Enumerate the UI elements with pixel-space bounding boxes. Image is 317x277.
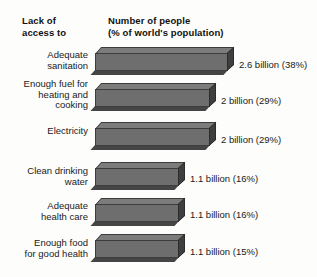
bar-body [95, 162, 179, 180]
bar-body [95, 234, 179, 252]
column-header-value: Number of people (% of world's populatio… [108, 15, 224, 38]
column-header-category-line1: Lack of [22, 15, 66, 27]
category-label-line: Electricity [2, 126, 88, 137]
bar [95, 47, 228, 65]
bar-body [95, 198, 179, 216]
bar-front-face [95, 240, 179, 258]
category-label-line: Clean drinking [2, 166, 88, 177]
category-label-line: Adequate [2, 201, 88, 212]
category-label-line: sanitation [2, 61, 88, 72]
bar-side-face [178, 162, 185, 186]
column-header-value-line2: (% of world's population) [108, 27, 224, 39]
category-label: Adequatehealth care [2, 201, 88, 222]
column-header-value-line1: Number of people [108, 15, 224, 27]
category-label-line: Adequate [2, 50, 88, 61]
category-label: Adequatesanitation [2, 50, 88, 71]
bar [95, 198, 179, 216]
category-label: Electricity [2, 126, 88, 137]
bar-side-face [209, 122, 216, 146]
bar-front-face [95, 89, 210, 107]
category-label-line: for good health [2, 249, 88, 260]
bar-front-face [95, 53, 228, 71]
bar [95, 122, 210, 140]
bar-side-face [227, 47, 234, 71]
category-label: Clean drinkingwater [2, 166, 88, 187]
category-label: Enough foodfor good health [2, 238, 88, 259]
value-label: 1.1 billion (15%) [190, 246, 258, 257]
category-label: Enough fuel forheating andcooking [2, 79, 88, 111]
value-label: 2 billion (29%) [221, 134, 281, 145]
bar-body [95, 122, 210, 140]
bar-front-face [95, 204, 179, 222]
bar-chart: Lack of access to Number of people (% of… [0, 0, 317, 277]
bar-side-face [209, 83, 216, 107]
bar-front-face [95, 128, 210, 146]
bar-side-face [178, 234, 185, 258]
bar-side-face [178, 198, 185, 222]
bar-body [95, 47, 228, 65]
value-label: 2 billion (29%) [221, 95, 281, 106]
category-label-line: Enough fuel for [2, 79, 88, 90]
value-label: 1.1 billion (16%) [190, 173, 258, 184]
column-header-category: Lack of access to [22, 15, 66, 38]
value-label: 1.1 billion (16%) [190, 209, 258, 220]
category-label-line: cooking [2, 100, 88, 111]
bar [95, 162, 179, 180]
column-header-category-line2: access to [22, 27, 66, 39]
category-label-line: health care [2, 212, 88, 223]
category-label-line: Enough food [2, 238, 88, 249]
bar [95, 234, 179, 252]
category-label-line: water [2, 177, 88, 188]
bar [95, 83, 210, 101]
bar-front-face [95, 168, 179, 186]
bar-body [95, 83, 210, 101]
value-label: 2.6 billion (38%) [239, 59, 307, 70]
